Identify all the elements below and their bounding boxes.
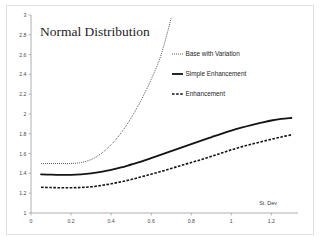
y-tick-label: 1 [24,210,27,216]
chart-figure: 11.21.41.61.822.22.42.62.83 00.20.40.60.… [0,0,322,241]
x-tick-label: 0 [30,218,33,224]
series-line-1 [41,18,171,164]
chart-legend: Base with VariationSimple EnhancementEnh… [172,50,246,97]
y-tick-label: 2.4 [19,71,26,77]
y-tick-label: 2.8 [19,32,26,38]
y-tick-label: 3 [24,12,27,18]
x-axis-title: St. Dev [259,200,277,206]
data-series-group [41,18,291,188]
y-tick-label: 1.8 [19,131,26,137]
series-line-3 [41,135,291,188]
x-tick-label: 0.8 [188,218,195,224]
x-tick-label: 0.6 [148,218,155,224]
chart-title: Normal Distribution [40,24,150,39]
y-tick-label: 2.6 [19,52,26,58]
y-tick-label: 2.2 [19,91,26,97]
x-tick-label: 1 [230,218,233,224]
y-tick-label: 1.2 [19,190,26,196]
legend-label-3: Enhancement [186,90,226,97]
x-tick-label: 1.2 [268,218,275,224]
y-tick-label: 1.6 [19,151,26,157]
y-tick-label: 1.4 [19,170,26,176]
x-tick-label: 0.4 [108,218,115,224]
x-axis-ticks: 00.20.40.60.811.2 [30,213,276,224]
y-axis-ticks: 11.21.41.61.822.22.42.62.83 [19,12,31,216]
legend-label-1: Base with Variation [186,50,241,57]
x-tick-label: 0.2 [67,218,74,224]
legend-label-2: Simple Enhancement [186,70,247,78]
series-line-2 [41,118,291,175]
y-tick-label: 2 [24,111,27,117]
normal-distribution-chart: 11.21.41.61.822.22.42.62.83 00.20.40.60.… [0,0,322,241]
plot-frame [31,15,298,213]
